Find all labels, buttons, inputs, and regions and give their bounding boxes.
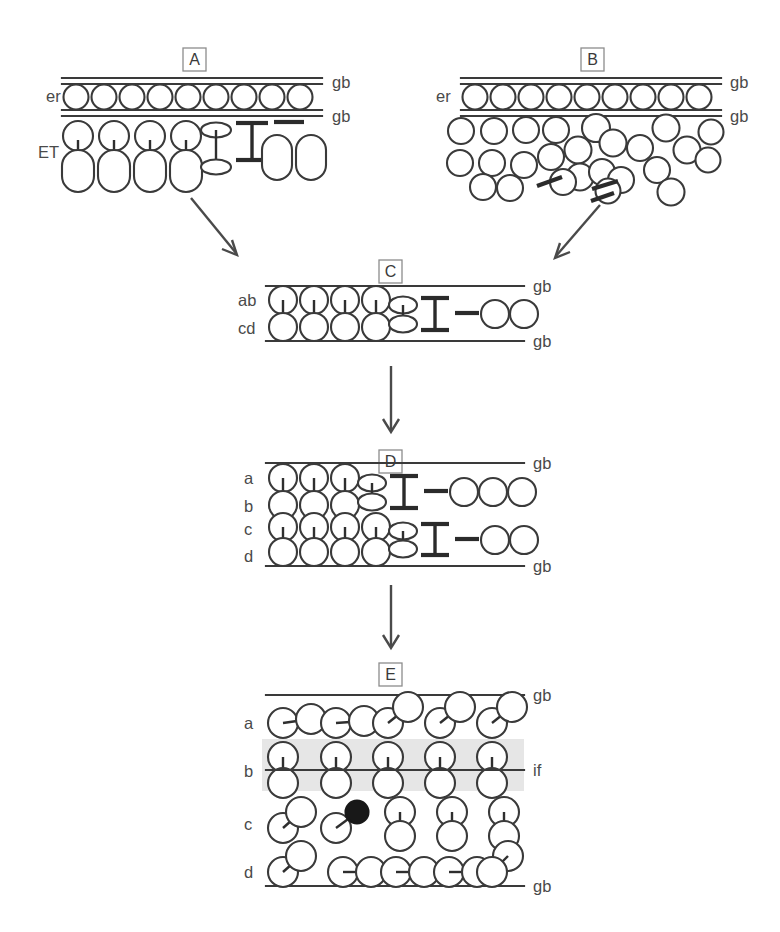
- panel-b-label-gb-bottom: gb: [730, 107, 748, 125]
- panel-d-row-ab-free-circles: [450, 478, 536, 506]
- arrow-d-to-e: [383, 585, 399, 648]
- panel-e-label-a: a: [244, 714, 254, 732]
- panel-c-free-circles: [481, 300, 538, 328]
- panel-e: E: [244, 663, 551, 895]
- panel-e-letter: E: [385, 666, 396, 683]
- panel-c-i-bar: [421, 298, 449, 330]
- arrow-a-to-c: [191, 198, 237, 255]
- panel-e-label-b: b: [244, 762, 253, 780]
- panel-a-label-er: er: [46, 87, 61, 105]
- panel-c-label-gb-top: gb: [533, 277, 551, 295]
- panel-a-label-ET: ET: [38, 143, 59, 161]
- panel-d-label-a: a: [244, 469, 254, 487]
- panel-d-label-b: b: [244, 497, 253, 515]
- panel-d-letter: D: [385, 453, 397, 470]
- panel-d-label-gb-top: gb: [533, 454, 551, 472]
- diagram-svg: A: [0, 0, 780, 932]
- panel-a-ellipse-dumbbell: [201, 123, 231, 175]
- panel-d-label-gb-bottom: gb: [533, 557, 551, 575]
- panel-d-label-c: c: [244, 520, 252, 538]
- panel-a-letter: A: [189, 51, 200, 68]
- panel-d-row-ab-i-bar: [390, 476, 418, 508]
- panel-a-label-gb-bottom: gb: [332, 107, 350, 125]
- panel-b: B: [436, 48, 748, 206]
- panel-d-row-cd-pairs: [269, 513, 390, 566]
- panel-c-label-cd: cd: [238, 319, 255, 337]
- panel-e-label-gb-bottom: gb: [533, 877, 551, 895]
- filled-particle-icon: [346, 801, 369, 824]
- panel-b-scattered-circles: [447, 114, 724, 206]
- panel-b-er-row: [463, 85, 712, 110]
- panel-d-row-ab-ellipse-pair: [358, 475, 386, 511]
- panel-e-row-a: [268, 692, 527, 738]
- panel-b-label-er: er: [436, 87, 451, 105]
- arrow-b-to-c: [555, 205, 600, 258]
- panel-c-label-ab: ab: [238, 291, 256, 309]
- panel-a-label-gb-top: gb: [332, 73, 350, 91]
- panel-c-ellipse-pair: [389, 297, 417, 333]
- panel-e-label-c: c: [244, 815, 252, 833]
- panel-d: D: [244, 450, 551, 575]
- panel-c: C ab cd gb gb: [238, 260, 551, 350]
- panel-d-row-ab-pairs: [269, 464, 359, 519]
- panel-b-letter: B: [587, 51, 598, 68]
- panel-d-row-cd-free-circles: [481, 526, 538, 554]
- figure-canvas: A: [0, 0, 780, 932]
- panel-d-label-d: d: [244, 547, 253, 565]
- panel-c-letter: C: [385, 263, 397, 280]
- panel-d-row-cd-i-bar: [421, 524, 449, 555]
- panel-e-label-d: d: [244, 863, 253, 881]
- panel-e-filled-particle-pair: [321, 801, 369, 844]
- panel-b-label-gb-top: gb: [730, 73, 748, 91]
- panel-d-row-cd-ellipse-pair: [389, 523, 417, 558]
- panel-c-label-gb-bottom: gb: [533, 332, 551, 350]
- panel-e-label-if: if: [533, 761, 542, 779]
- panel-c-circle-pairs: [269, 286, 390, 341]
- panel-a: A: [38, 48, 350, 192]
- panel-a-et-units: [62, 121, 202, 192]
- panel-a-er-row: [64, 85, 313, 110]
- panel-e-label-gb-top: gb: [533, 686, 551, 704]
- panel-a-free-capsules: [262, 135, 326, 180]
- arrow-c-to-d: [383, 366, 399, 432]
